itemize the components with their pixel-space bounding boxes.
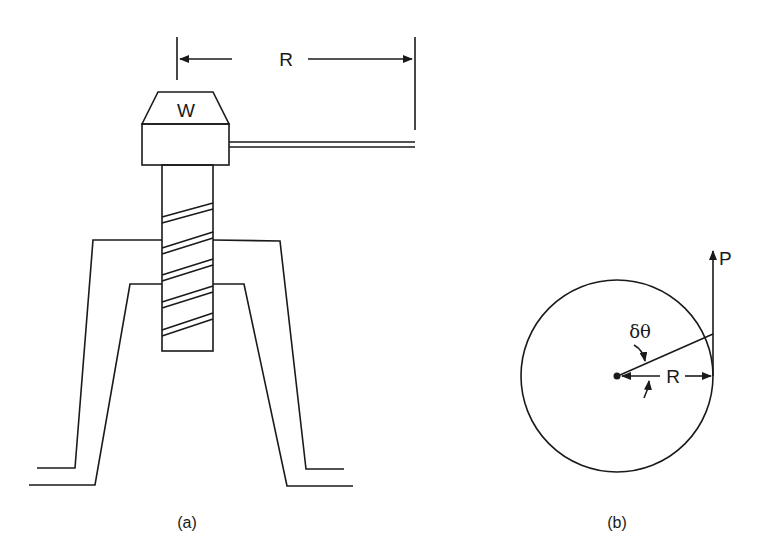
frame-inner-right	[213, 284, 353, 486]
figure-b: P R δθ (b)	[521, 248, 732, 531]
force-label-p: P	[719, 248, 732, 269]
screw-threads	[162, 203, 213, 336]
radius-label-a: R	[279, 49, 293, 70]
frame-outer-left	[37, 240, 162, 468]
screw-shaft	[162, 165, 213, 351]
caption-a: (a)	[177, 514, 197, 531]
diagram-canvas: R W	[0, 0, 762, 551]
angle-pointer-bottom	[644, 381, 649, 398]
frame-inner-left	[29, 284, 162, 485]
center-point	[614, 373, 621, 380]
caption-b: (b)	[607, 514, 627, 531]
lever-arm	[229, 142, 415, 147]
weight-block: W	[142, 92, 229, 165]
screw	[162, 165, 213, 351]
angle-pointer-top	[634, 345, 645, 361]
radius-label-b: R	[666, 366, 680, 387]
frame-outer-right	[213, 240, 344, 469]
weight-label: W	[177, 100, 195, 121]
weight-base	[142, 124, 229, 165]
radius-dimension: R	[177, 37, 415, 130]
angle-label: δθ	[629, 321, 651, 342]
figure-a: R W	[29, 37, 415, 531]
jack-frame	[29, 240, 353, 486]
